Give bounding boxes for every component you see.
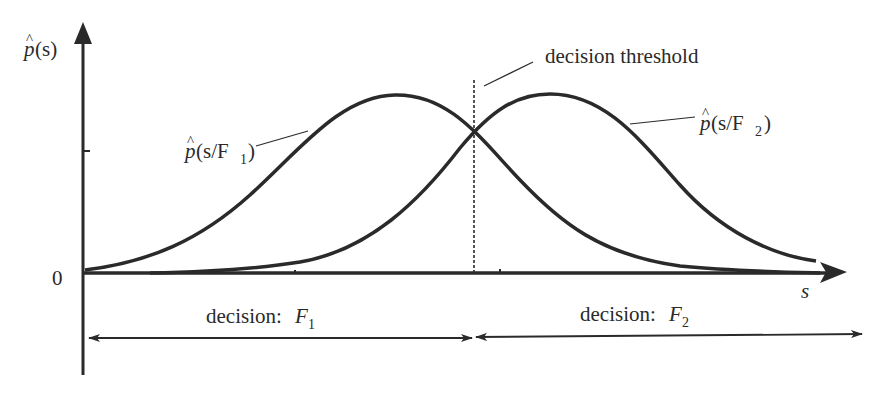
y-axis-arrow-icon [74, 22, 92, 44]
decision-threshold-diagram: p ^ (s) 0 s decision threshold p ^ (s/F … [0, 0, 886, 394]
svg-text:F: F [294, 304, 308, 328]
curve-f2-label: p ^ (s/F 2 ) [698, 105, 771, 139]
y-axis-label: p ^ (s) [22, 31, 57, 61]
region-f2-arrow [476, 334, 862, 337]
svg-text:(s): (s) [35, 37, 57, 61]
svg-text:^: ^ [187, 133, 194, 149]
svg-text:2: 2 [682, 315, 689, 330]
svg-text:decision:: decision: [580, 302, 656, 326]
curve-f1-label: p ^ (s/F 1 ) [183, 133, 255, 167]
svg-text:1: 1 [308, 317, 315, 332]
svg-text:decision:: decision: [206, 304, 282, 328]
origin-label: 0 [52, 266, 63, 290]
x-axis-label: s [801, 279, 809, 303]
region-f2-label: decision: F 2 [580, 302, 689, 330]
svg-text:): ) [248, 139, 255, 163]
svg-text:1: 1 [240, 152, 247, 167]
svg-text:^: ^ [702, 105, 709, 121]
svg-text:2: 2 [755, 124, 762, 139]
threshold-leader-line [484, 62, 533, 86]
svg-text:): ) [764, 111, 771, 135]
svg-text:F: F [668, 302, 682, 326]
f1-leader-line [256, 131, 308, 146]
f2-leader-line [630, 117, 695, 124]
svg-text:(s/F: (s/F [711, 111, 744, 135]
svg-text:^: ^ [26, 31, 33, 47]
svg-text:(s/F: (s/F [196, 139, 229, 163]
region-f1-label: decision: F 1 [206, 304, 315, 332]
threshold-label: decision threshold [545, 44, 699, 68]
